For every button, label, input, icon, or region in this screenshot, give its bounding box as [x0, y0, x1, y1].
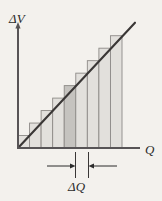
delta-q-arrowhead-left-pointing: [89, 163, 95, 168]
plot-svg: [0, 0, 162, 201]
figure-canvas: ΔV Q ΔQ: [0, 0, 162, 201]
bar: [99, 48, 111, 148]
delta-q-arrowhead-right-pointing: [70, 163, 76, 168]
y-axis-arrowhead: [15, 22, 20, 29]
bar: [110, 36, 122, 148]
bar-highlighted: [64, 86, 76, 148]
delta-q-annotation: [47, 152, 117, 178]
bar: [87, 61, 99, 148]
bar: [30, 123, 42, 148]
